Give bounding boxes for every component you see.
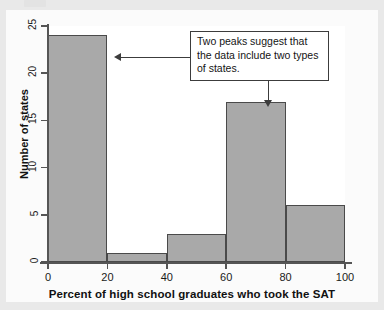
y-tick-label-text: 5	[30, 211, 41, 217]
x-axis-title: Percent of high school graduates who too…	[0, 288, 384, 300]
x-tick-0	[47, 263, 49, 269]
bar-40-60	[167, 234, 226, 262]
annotation-callout-box: Two peaks suggest that the data include …	[190, 31, 329, 81]
x-tick-label-60: 60	[206, 271, 246, 283]
x-tick-20	[107, 263, 109, 269]
annotation-line-1: Two peaks suggest that	[197, 35, 323, 49]
x-tick-label-20: 20	[87, 271, 127, 283]
annotation-arrow-down-shaft	[268, 81, 269, 101]
annotation-arrow-down-head-icon	[264, 100, 272, 107]
x-tick-100	[344, 263, 346, 269]
y-tick-label-text: 25	[27, 19, 38, 30]
annotation-arrow-left-head-icon	[114, 53, 121, 61]
x-tick-label-100: 100	[325, 271, 365, 283]
bar-0-20	[48, 35, 107, 262]
annotation-arrow-left-shaft	[119, 57, 190, 58]
y-tick-label-5: 5	[0, 208, 38, 219]
x-tick-40	[166, 263, 168, 269]
bar-60-80	[226, 102, 285, 262]
annotation-line-2: the data include two types	[197, 49, 323, 63]
y-axis-line	[47, 24, 49, 263]
bar-80-100	[286, 205, 345, 262]
scan-artifact	[24, 0, 46, 7]
y-tick-label-0: 0	[0, 255, 38, 266]
y-tick-label-25: 25	[0, 19, 38, 30]
bar-20-40	[107, 253, 166, 262]
histogram-figure: 0510152025020406080100 Number of states …	[0, 0, 384, 310]
x-axis-line	[40, 262, 352, 264]
x-tick-label-0: 0	[28, 271, 68, 283]
x-tick-80	[285, 263, 287, 269]
x-tick-60	[225, 263, 227, 269]
annotation-line-3: of states.	[197, 62, 323, 76]
x-tick-label-80: 80	[266, 271, 306, 283]
x-tick-label-40: 40	[147, 271, 187, 283]
y-axis-title: Number of states	[18, 64, 30, 204]
